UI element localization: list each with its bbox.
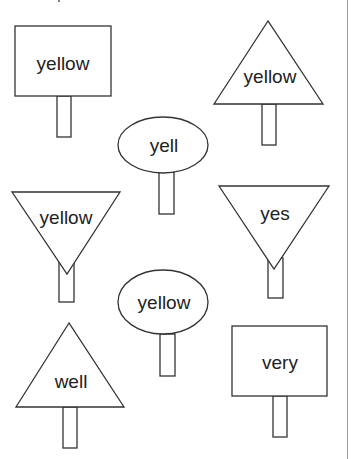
- sign-word: yes: [260, 203, 290, 224]
- cropped-mark: [58, 0, 60, 2]
- sign-word: yellow: [138, 292, 191, 313]
- sign-post: [63, 407, 77, 448]
- sign-post: [159, 172, 174, 214]
- sign-triangle-well: well: [16, 323, 124, 448]
- sign-post: [160, 334, 175, 376]
- sign-post: [273, 396, 287, 437]
- sign-word: well: [54, 371, 88, 392]
- sign-word: yellow: [40, 207, 93, 228]
- sign-triangle-yellow: yellow: [214, 21, 323, 145]
- sign-word: yellow: [37, 53, 90, 74]
- sign-board-inverted-triangle: [12, 192, 120, 274]
- page-edge-line: [347, 0, 348, 459]
- sign-post: [57, 96, 71, 137]
- sign-word: yell: [150, 135, 179, 156]
- worksheet-page: yellow yellow yell yellow: [0, 0, 351, 459]
- sign-inverted-triangle-yes: yes: [219, 186, 329, 298]
- sign-word: yellow: [244, 66, 297, 87]
- signs-canvas: yellow yellow yell yellow: [0, 0, 351, 459]
- sign-word: very: [262, 352, 298, 373]
- sign-board-triangle: [214, 21, 323, 104]
- sign-rectangle-yellow: yellow: [15, 26, 111, 137]
- sign-rectangle-very: very: [232, 326, 327, 437]
- sign-oval-yellow: yellow: [118, 270, 208, 376]
- sign-inverted-triangle-yellow: yellow: [12, 192, 120, 302]
- sign-board-inverted-triangle: [219, 186, 329, 269]
- sign-oval-yell: yell: [118, 117, 208, 214]
- sign-board-triangle: [16, 323, 124, 407]
- sign-post: [262, 104, 276, 145]
